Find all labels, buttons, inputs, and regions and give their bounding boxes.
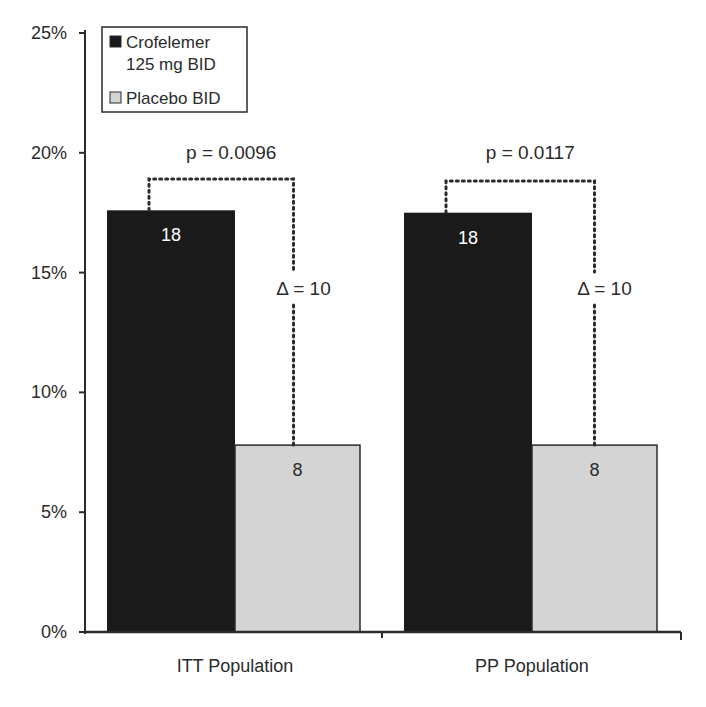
y-tick-label: 0% [41, 622, 67, 642]
p-value-label: p = 0.0117 [486, 142, 575, 163]
legend-label: 125 mg BID [126, 55, 216, 74]
x-category-label: ITT Population [177, 656, 294, 676]
legend: Crofelemer125 mg BIDPlacebo BID [102, 27, 247, 112]
bar-crofelemer [404, 213, 532, 632]
legend-label: Placebo BID [126, 89, 221, 108]
bar-value-label: 8 [292, 460, 302, 480]
delta-label: Δ = 10 [577, 278, 631, 299]
legend-swatch-crofelemer [110, 36, 121, 47]
bars: 188188 [107, 210, 657, 632]
delta-label: Δ = 10 [276, 278, 330, 299]
y-tick-label: 25% [31, 23, 67, 43]
x-category-label: PP Population [475, 656, 589, 676]
legend-swatch-placebo [110, 92, 121, 103]
x-axis: ITT PopulationPP Population [85, 632, 681, 676]
y-axis: 0%5%10%15%20%25% [31, 23, 85, 642]
y-tick-label: 5% [41, 502, 67, 522]
legend-label: Crofelemer [126, 33, 210, 52]
bar-value-label: 8 [589, 460, 599, 480]
y-tick-label: 20% [31, 143, 67, 163]
y-tick-label: 15% [31, 263, 67, 283]
bar-value-label: 18 [458, 228, 478, 248]
bar-chart: 0%5%10%15%20%25% 188188 p = 0.0096Δ = 10… [0, 0, 706, 707]
y-tick-label: 10% [31, 382, 67, 402]
bar-crofelemer [107, 210, 235, 632]
bar-value-label: 18 [161, 225, 181, 245]
p-value-label: p = 0.0096 [186, 142, 276, 163]
